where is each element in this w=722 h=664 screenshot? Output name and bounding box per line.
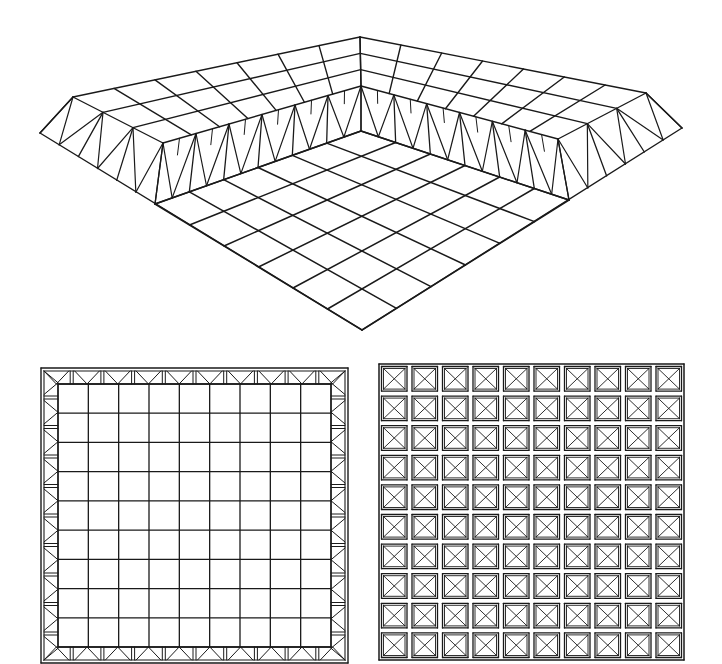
member-line xyxy=(331,460,345,472)
member-line xyxy=(278,110,279,124)
member-line xyxy=(331,371,345,383)
member-line xyxy=(44,412,58,424)
member-line xyxy=(44,530,58,542)
member-line xyxy=(44,619,58,631)
member-line xyxy=(44,589,58,601)
member-line xyxy=(331,589,345,601)
member-line xyxy=(331,607,345,619)
member-line xyxy=(448,113,460,160)
member-line xyxy=(179,371,191,384)
member-line xyxy=(302,647,314,660)
member-line xyxy=(136,371,148,384)
member-line xyxy=(331,560,345,572)
member-line xyxy=(271,371,283,384)
member-line xyxy=(587,124,606,176)
member-line xyxy=(56,647,68,660)
member-line xyxy=(105,371,117,384)
member-line xyxy=(331,489,345,501)
member-line xyxy=(331,430,345,442)
member-line xyxy=(587,124,588,188)
member-line xyxy=(331,530,345,542)
member-line xyxy=(44,471,58,483)
member-line xyxy=(331,412,345,424)
member-line xyxy=(360,37,361,86)
member-line xyxy=(327,96,328,144)
member-line xyxy=(148,647,160,660)
member-line xyxy=(394,95,396,143)
member-line xyxy=(44,648,58,660)
member-line xyxy=(75,371,87,384)
member-line xyxy=(210,371,222,384)
member-line xyxy=(310,96,329,150)
member-line xyxy=(198,647,210,660)
member-line xyxy=(378,95,394,137)
member-line xyxy=(136,143,163,192)
member-line xyxy=(617,108,645,152)
perspective-view xyxy=(40,37,682,330)
member-line xyxy=(44,578,58,590)
member-line xyxy=(133,128,136,193)
member-line xyxy=(210,647,222,660)
member-line xyxy=(331,548,345,560)
member-line xyxy=(228,371,240,384)
member-line xyxy=(237,63,276,111)
member-line xyxy=(244,119,245,134)
member-line xyxy=(331,578,345,590)
member-line xyxy=(552,139,558,194)
member-line xyxy=(44,401,58,413)
member-line xyxy=(558,93,646,139)
member-line xyxy=(271,647,283,660)
member-line xyxy=(344,86,361,137)
member-line xyxy=(163,143,172,198)
member-line xyxy=(417,53,441,101)
member-line xyxy=(331,442,345,454)
member-line xyxy=(259,371,271,384)
member-line xyxy=(189,192,396,309)
member-line xyxy=(302,371,314,384)
member-line xyxy=(262,115,275,162)
member-line xyxy=(44,489,58,501)
member-line xyxy=(118,371,130,384)
member-line xyxy=(167,371,179,384)
member-line xyxy=(44,383,58,395)
member-line xyxy=(44,637,58,649)
member-line xyxy=(44,460,58,472)
member-line xyxy=(73,37,360,97)
member-line xyxy=(290,371,302,384)
member-line xyxy=(44,548,58,560)
member-line xyxy=(413,104,427,149)
member-line xyxy=(410,99,411,113)
member-line xyxy=(331,637,345,649)
member-line xyxy=(224,180,431,287)
member-line xyxy=(177,138,179,155)
member-line xyxy=(259,647,271,660)
member-line xyxy=(228,647,240,660)
member-line xyxy=(331,401,345,413)
member-line xyxy=(278,54,304,102)
member-line xyxy=(509,126,511,142)
member-line xyxy=(155,143,163,204)
member-line xyxy=(331,501,345,513)
member-line xyxy=(87,371,99,384)
member-line xyxy=(646,93,663,140)
member-line xyxy=(44,607,58,619)
member-line xyxy=(44,501,58,513)
member-line xyxy=(167,647,179,660)
member-line xyxy=(445,61,482,109)
member-line xyxy=(482,121,492,171)
member-line xyxy=(517,130,525,183)
plan-top-pyramid-layer xyxy=(379,364,684,660)
member-line xyxy=(617,108,664,140)
member-line xyxy=(196,134,207,186)
member-line xyxy=(56,371,68,384)
member-line xyxy=(44,371,58,383)
member-line xyxy=(98,128,134,169)
member-line xyxy=(118,647,130,660)
member-line xyxy=(319,46,333,95)
member-line xyxy=(179,647,191,660)
member-line xyxy=(474,69,524,116)
member-line xyxy=(525,130,534,188)
member-line xyxy=(117,128,133,181)
space-frame-diagram xyxy=(0,0,722,664)
member-line xyxy=(331,519,345,531)
